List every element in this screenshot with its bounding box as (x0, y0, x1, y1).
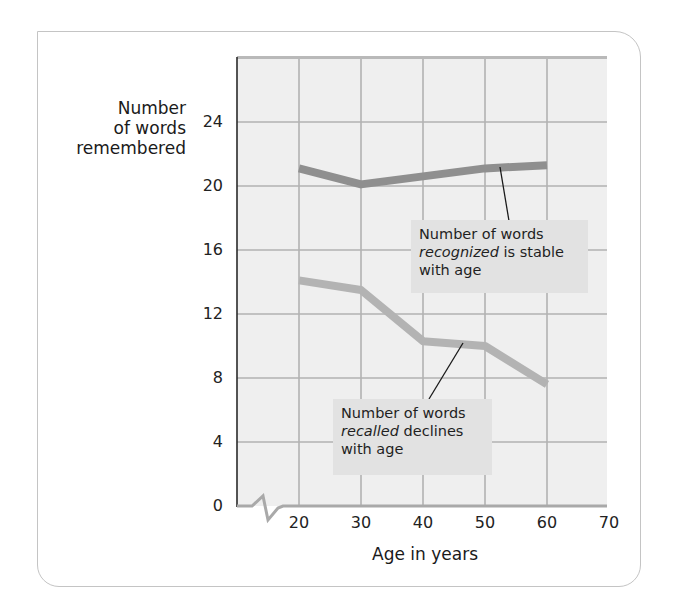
annotation-recognized-line-1: Number of words (419, 225, 580, 243)
annotation-recalled-line-3: with age (341, 440, 484, 458)
x-tick-40: 40 (403, 514, 443, 532)
annotation-recognized-line-2: recognized is stable (419, 243, 580, 261)
annotation-recalled: Number of words recalled declines with a… (333, 399, 492, 475)
x-tick-50: 50 (465, 514, 505, 532)
annotation-recognized-line-3: with age (419, 261, 580, 279)
annotation-recalled-line-2: recalled declines (341, 422, 484, 440)
annotation-recognized-emphasis: recognized (419, 244, 499, 260)
annotation-recognized: Number of words recognized is stable wit… (411, 220, 588, 293)
annotation-recalled-emphasis: recalled (341, 423, 399, 439)
plot-area (0, 0, 677, 613)
y-tick-16: 16 (183, 241, 223, 259)
y-tick-20: 20 (183, 177, 223, 195)
x-tick-70: 70 (589, 514, 629, 532)
x-tick-20: 20 (279, 514, 319, 532)
x-axis-label: Age in years (340, 544, 510, 564)
y-tick-12: 12 (183, 305, 223, 323)
y-tick-0: 0 (183, 497, 223, 515)
x-tick-60: 60 (527, 514, 567, 532)
y-tick-4: 4 (183, 433, 223, 451)
y-tick-8: 8 (183, 369, 223, 387)
annotation-recognized-rest: is stable (499, 244, 564, 260)
x-tick-30: 30 (341, 514, 381, 532)
annotation-recalled-line-1: Number of words (341, 404, 484, 422)
y-tick-24: 24 (183, 113, 223, 131)
plot-top-border (237, 56, 607, 59)
annotation-recalled-rest: declines (399, 423, 463, 439)
